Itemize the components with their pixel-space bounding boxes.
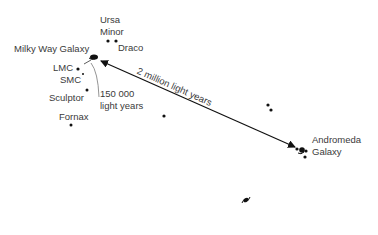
sculptor-label: Sculptor [49, 92, 84, 103]
galaxy-dot [269, 108, 272, 111]
fornax-label: Fornax [59, 111, 89, 122]
distance-150000-label: light years [100, 100, 143, 111]
milky-way-galaxy-icon [89, 54, 98, 59]
andromeda-label: Andromeda [312, 134, 361, 145]
ursa-minor-dot [106, 39, 109, 42]
smc-dot [82, 73, 84, 75]
distance-leader-line [91, 63, 99, 97]
andromeda-label: Galaxy [312, 146, 342, 157]
ursa-minor-label: Minor [100, 26, 124, 37]
lmc-leader-line [84, 60, 91, 64]
sculptor-dot [86, 89, 89, 92]
smc-label: SMC [60, 74, 81, 85]
lmc-label: LMC [53, 62, 73, 73]
spiral-galaxy-icon [242, 197, 250, 203]
andromeda-galaxy-icon [295, 147, 307, 158]
local-group-diagram [0, 0, 378, 235]
lmc-dot [76, 67, 79, 70]
fornax-dot [70, 124, 73, 127]
distance-150000-label: 150 000 [100, 88, 134, 99]
ursa-minor-label: Ursa [100, 14, 120, 25]
draco-label: Draco [118, 42, 143, 53]
galaxy-dot [162, 114, 165, 117]
galaxy-dot [266, 103, 269, 106]
milky-way-label: Milky Way Galaxy [14, 43, 89, 54]
